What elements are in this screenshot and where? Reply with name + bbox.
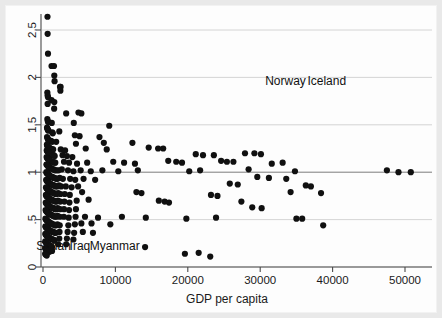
data-point	[70, 168, 76, 174]
data-point	[83, 145, 89, 151]
data-point	[258, 151, 264, 157]
data-point	[146, 144, 152, 150]
data-point	[165, 158, 171, 164]
data-point	[107, 221, 113, 227]
annotation-sudan: Sudan	[36, 239, 71, 253]
data-point	[269, 161, 275, 167]
data-point	[288, 189, 294, 195]
data-point	[63, 183, 69, 189]
y-tick-label: 1	[26, 169, 38, 175]
data-point	[242, 150, 248, 156]
data-point	[75, 183, 81, 189]
data-point	[88, 220, 94, 226]
data-point	[320, 222, 326, 228]
data-point	[197, 167, 203, 173]
data-point	[266, 175, 272, 181]
data-point	[132, 161, 138, 167]
data-point	[115, 168, 121, 174]
data-point	[72, 221, 78, 227]
data-point	[51, 72, 57, 78]
data-point	[90, 230, 96, 236]
y-tick-label: 0	[26, 264, 38, 270]
data-point	[135, 167, 141, 173]
data-point	[182, 251, 188, 257]
data-point	[96, 134, 102, 140]
data-point	[308, 183, 314, 189]
data-point	[166, 199, 172, 205]
data-point	[283, 176, 289, 182]
data-point	[254, 174, 260, 180]
data-point	[138, 190, 144, 196]
data-point	[69, 184, 75, 190]
data-point	[60, 176, 66, 182]
data-point	[293, 216, 299, 222]
data-point	[200, 152, 206, 158]
data-point	[251, 150, 257, 156]
data-point	[395, 169, 401, 175]
data-point	[57, 88, 63, 94]
data-point	[53, 139, 59, 145]
data-point	[51, 63, 57, 69]
x-tick-label: 40000	[317, 274, 349, 286]
data-point	[160, 145, 166, 151]
data-point	[101, 140, 107, 146]
data-point	[74, 161, 80, 167]
data-point	[384, 167, 390, 173]
y-tick-label: 1.5	[26, 117, 38, 133]
data-point	[211, 152, 217, 158]
data-point	[214, 193, 220, 199]
data-point	[65, 229, 71, 235]
data-point	[57, 222, 63, 228]
data-point	[52, 153, 58, 159]
data-point	[50, 130, 56, 136]
y-tick-label: .5	[26, 215, 38, 225]
data-point	[69, 154, 75, 160]
data-point	[99, 167, 105, 173]
data-point	[186, 168, 192, 174]
data-point	[72, 214, 78, 220]
data-point	[71, 230, 77, 236]
data-point	[142, 244, 148, 250]
data-point	[66, 215, 72, 221]
data-point	[56, 229, 62, 235]
data-point	[73, 206, 79, 212]
data-point	[45, 51, 51, 57]
annotation-iraq: Iraq	[70, 239, 91, 253]
data-point	[143, 215, 149, 221]
data-point	[51, 99, 57, 105]
x-tick-label: 10000	[99, 274, 131, 286]
data-point	[67, 192, 73, 198]
data-point	[129, 140, 135, 146]
data-point	[59, 166, 65, 172]
x-tick-labels-group: 01000020000300004000050000	[40, 274, 421, 286]
data-point	[45, 31, 51, 37]
data-point	[173, 159, 179, 165]
data-point	[52, 160, 58, 166]
data-point	[45, 101, 51, 107]
data-point	[227, 180, 233, 186]
annotation-myanmar: Myanmar	[90, 239, 140, 253]
data-point	[259, 205, 265, 211]
data-point	[299, 216, 305, 222]
data-point	[318, 190, 324, 196]
y-tick-label: 2	[26, 74, 38, 80]
data-point	[63, 110, 69, 116]
data-point	[44, 14, 50, 20]
data-point	[224, 159, 230, 165]
chart-screenshot: 01000020000300004000050000 0.511.522.5 N…	[0, 0, 442, 318]
data-point	[92, 177, 98, 183]
data-point	[408, 169, 414, 175]
data-point	[218, 158, 224, 164]
data-point	[213, 215, 219, 221]
gridlines-group	[42, 30, 432, 267]
data-point	[230, 159, 236, 165]
data-point	[235, 181, 241, 187]
data-point	[44, 253, 50, 259]
data-point	[49, 120, 55, 126]
data-point	[156, 198, 162, 204]
data-point	[78, 167, 84, 173]
data-point	[66, 207, 72, 213]
data-point	[56, 128, 62, 134]
data-point	[76, 133, 82, 139]
data-point	[78, 110, 84, 116]
